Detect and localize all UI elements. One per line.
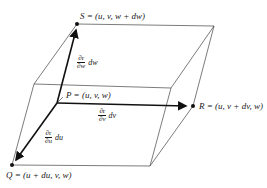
tail-v: dv: [109, 111, 117, 120]
tail-u: du: [55, 133, 63, 142]
den-v: ∂v: [98, 116, 107, 123]
point-q: [10, 163, 14, 167]
diagram-lines: [0, 0, 267, 188]
label-q: Q = (u + du, v, w): [6, 170, 71, 180]
point-r: [191, 104, 195, 108]
partial-v-label: ∂r∂v dv: [98, 108, 116, 123]
parallelepiped-diagram: S = (u, v, w + dw) P = (u, v, w) R = (u,…: [0, 0, 267, 188]
tail-w: dw: [88, 58, 97, 67]
label-p: P = (u, v, w): [66, 90, 111, 100]
den-u: ∂u: [44, 138, 53, 145]
partial-u-label: ∂r∂u du: [44, 130, 63, 145]
partial-w-label: ∂r∂w dw: [76, 55, 97, 70]
box-edges: [12, 24, 214, 166]
label-s: S = (u, v, w + dw): [80, 11, 145, 21]
den-w: ∂w: [76, 63, 86, 70]
point-s: [75, 22, 79, 26]
label-r: R = (u, v + dv, w): [199, 101, 263, 111]
